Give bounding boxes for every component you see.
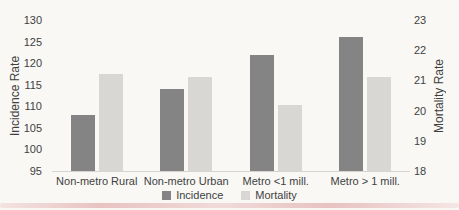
bar-incidence bbox=[250, 55, 274, 171]
tick-label-left: 125 bbox=[24, 36, 42, 48]
tick-label-left: 95 bbox=[30, 165, 42, 177]
tick-label-left: 120 bbox=[24, 57, 42, 69]
tick-label-right: 20 bbox=[414, 105, 426, 117]
bar-mortality bbox=[188, 77, 212, 171]
tick-label-right: 23 bbox=[414, 14, 426, 26]
tick-label-left: 100 bbox=[24, 143, 42, 155]
scan-artifact-stripe bbox=[0, 203, 459, 208]
bar-incidence bbox=[160, 89, 184, 171]
bar-group bbox=[142, 20, 232, 171]
plot-area bbox=[52, 20, 410, 172]
x-axis-category-label: Non-metro Rural bbox=[52, 175, 142, 187]
tick-label-left: 115 bbox=[24, 79, 42, 91]
legend-label-mortality: Mortality bbox=[255, 189, 297, 201]
bar-incidence bbox=[339, 37, 363, 171]
tick-label-right: 21 bbox=[414, 74, 426, 86]
legend-item-mortality: Mortality bbox=[241, 189, 297, 201]
mortality-swatch-icon bbox=[241, 191, 250, 200]
y-axis-left-ticks: 13012512011511010510095 bbox=[0, 20, 48, 171]
legend-label-incidence: Incidence bbox=[176, 189, 223, 201]
y-axis-right-title: Mortality Rate bbox=[432, 20, 446, 171]
tick-label-left: 105 bbox=[24, 122, 42, 134]
tick-label-right: 18 bbox=[414, 165, 426, 177]
legend: Incidence Mortality bbox=[0, 189, 459, 201]
bar-group bbox=[231, 20, 321, 171]
bar-mortality bbox=[367, 77, 391, 171]
bar-group bbox=[52, 20, 142, 171]
tick-label-left: 130 bbox=[24, 14, 42, 26]
x-axis-category-label: Metro > 1 mill. bbox=[321, 175, 411, 187]
incidence-swatch-icon bbox=[162, 191, 171, 200]
tick-label-left: 110 bbox=[24, 100, 42, 112]
bar-incidence bbox=[71, 115, 95, 171]
legend-item-incidence: Incidence bbox=[162, 189, 223, 201]
tick-label-right: 19 bbox=[414, 135, 426, 147]
dual-axis-bar-chart: Incidence Rate 13012512011511010510095 2… bbox=[0, 0, 459, 210]
tick-label-right: 22 bbox=[414, 44, 426, 56]
x-axis-category-label: Non-metro Urban bbox=[142, 175, 232, 187]
x-axis-category-labels: Non-metro RuralNon-metro UrbanMetro <1 m… bbox=[52, 175, 410, 187]
bar-mortality bbox=[99, 74, 123, 171]
x-axis-category-label: Metro <1 mill. bbox=[231, 175, 321, 187]
bar-group bbox=[321, 20, 411, 171]
bar-mortality bbox=[278, 105, 302, 171]
